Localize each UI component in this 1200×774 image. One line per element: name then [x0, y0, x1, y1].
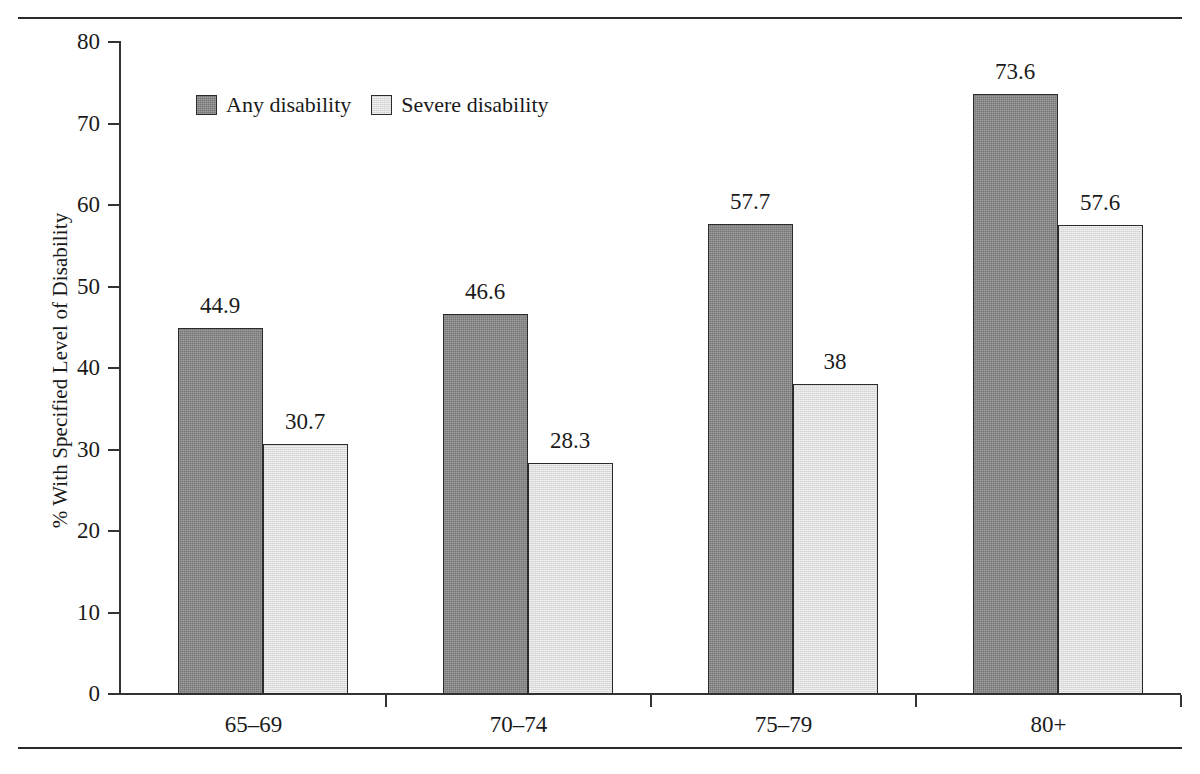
- y-axis-tick-label: 0: [40, 682, 100, 705]
- bar-dark: [443, 314, 528, 694]
- bar-value-label: 57.7: [675, 190, 825, 213]
- y-axis-tick: [108, 367, 119, 369]
- bar-light: [1058, 225, 1143, 694]
- y-axis-tick-label: 50: [40, 275, 100, 298]
- x-axis-tick: [385, 695, 387, 707]
- y-axis-tick-label: 40: [40, 356, 100, 379]
- y-axis-tick: [108, 41, 119, 43]
- bar-light: [528, 463, 613, 694]
- y-axis-tick-label: 80: [40, 30, 100, 53]
- x-axis-category-label: 80+: [949, 712, 1149, 738]
- legend-swatch-icon: [371, 95, 392, 115]
- x-axis-tick: [1180, 695, 1182, 707]
- x-axis-tick: [650, 695, 652, 707]
- y-axis-tick: [108, 530, 119, 532]
- x-axis-category-label: 65–69: [154, 712, 354, 738]
- bar-dark: [178, 328, 263, 694]
- bar-value-label: 38: [760, 350, 910, 373]
- y-axis-tick-label: 10: [40, 601, 100, 624]
- top-divider-rule: [18, 17, 1182, 19]
- y-axis-tick: [108, 693, 119, 695]
- x-axis-category-label: 70–74: [419, 712, 619, 738]
- legend-label: Severe disability: [401, 92, 548, 118]
- x-axis-category-label: 75–79: [684, 712, 884, 738]
- y-axis-tick: [108, 449, 119, 451]
- bottom-divider-rule: [18, 747, 1182, 749]
- bar-dark: [708, 224, 793, 694]
- y-axis-tick-label: 60: [40, 193, 100, 216]
- legend-item-1[interactable]: Any disability: [196, 92, 351, 118]
- bar-value-label: 46.6: [410, 280, 560, 303]
- x-axis-tick: [915, 695, 917, 707]
- bar-value-label: 73.6: [940, 60, 1090, 83]
- bar-value-label: 57.6: [1025, 191, 1175, 214]
- y-axis-tick: [108, 204, 119, 206]
- bar-value-label: 30.7: [230, 410, 380, 433]
- y-axis-tick-label: 70: [40, 112, 100, 135]
- legend-label: Any disability: [226, 92, 351, 118]
- y-axis-line: [119, 41, 121, 695]
- chart-legend: Any disabilitySevere disability: [196, 92, 549, 118]
- legend-item-2[interactable]: Severe disability: [371, 92, 548, 118]
- legend-swatch-icon: [196, 95, 217, 115]
- y-axis-tick-label: 20: [40, 519, 100, 542]
- bar-value-label: 44.9: [145, 294, 295, 317]
- y-axis-tick-label: 30: [40, 438, 100, 461]
- y-axis-tick: [108, 612, 119, 614]
- bar-dark: [973, 94, 1058, 694]
- figure-container: % With Specified Level of Disability 010…: [0, 0, 1200, 774]
- bar-light: [263, 444, 348, 694]
- bar-light: [793, 384, 878, 694]
- bar-value-label: 28.3: [495, 429, 645, 452]
- y-axis-tick: [108, 286, 119, 288]
- y-axis-tick: [108, 123, 119, 125]
